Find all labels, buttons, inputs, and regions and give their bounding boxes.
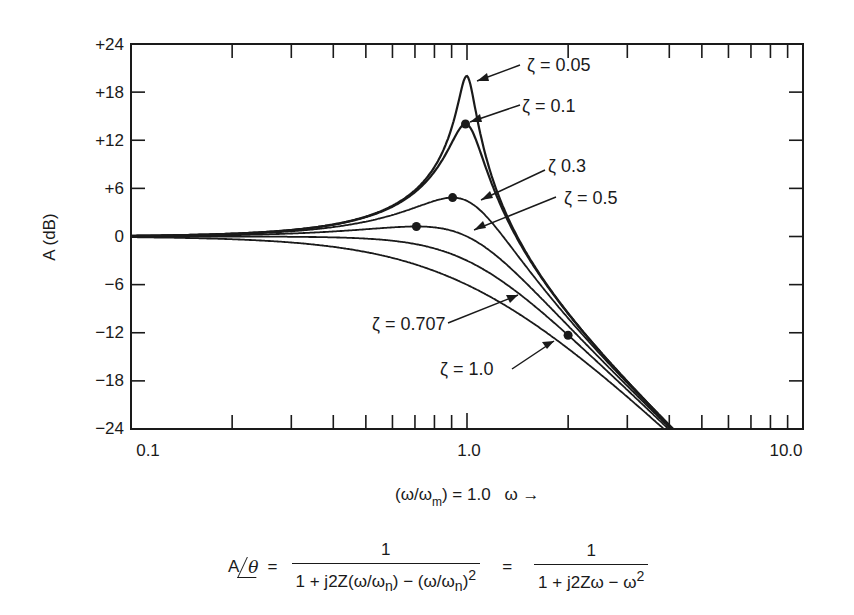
- theta-symbol: θ: [249, 557, 259, 577]
- y-tick-label: +18: [95, 83, 124, 102]
- denominator-2: 1 + j2Zω − ω2: [534, 564, 648, 593]
- x-tick-label: 0.1: [136, 441, 160, 460]
- marker-dot: [448, 193, 457, 202]
- label-zeta-0-1: ζ = 0.1: [522, 96, 575, 116]
- y-tick-label: −12: [95, 323, 124, 342]
- fraction-2: 1 1 + j2Zω − ω2: [534, 541, 648, 593]
- x-tick-label: 10.0: [769, 441, 802, 460]
- fraction-1: 1 1 + j2Z(ω/ωn) − (ω/ωn)2: [292, 540, 481, 594]
- bode-magnitude-chart: +24 +18 +12 +6 0 −6 −12 −18 −24 A (dB) 0…: [0, 0, 854, 615]
- marker-dot: [564, 331, 573, 340]
- label-zeta-0-3: ζ 0.3: [548, 156, 586, 176]
- label-zeta-1-0: ζ = 1.0: [440, 359, 493, 379]
- numerator-1: 1: [377, 540, 394, 563]
- label-zeta-0-5: ζ = 0.5: [564, 188, 617, 208]
- marker-dot: [412, 222, 421, 231]
- y-tick-label: −18: [95, 371, 124, 390]
- x-tick-label: 1.0: [457, 441, 481, 460]
- label-zeta-0-707: ζ = 0.707: [372, 314, 446, 334]
- label-zeta-0-05: ζ = 0.05: [527, 55, 590, 75]
- y-tick-label: +12: [95, 131, 124, 150]
- y-axis-label: A (dB): [40, 213, 59, 260]
- formula-lhs: A θ: [228, 557, 262, 578]
- phase-angle: θ: [237, 557, 266, 578]
- equals-sign-2: =: [502, 557, 512, 577]
- y-tick-label: −6: [105, 275, 124, 294]
- transfer-function-formula: A θ = 1 1 + j2Z(ω/ωn) − (ω/ωn)2 = 1 1 + …: [228, 540, 656, 594]
- response-curves: [131, 76, 689, 429]
- y-tick-label: 0: [115, 227, 124, 246]
- y-tick-label: −24: [95, 419, 124, 438]
- curve-zeta-0-05: [131, 76, 689, 429]
- marker-dot: [461, 120, 470, 129]
- curve-zeta-0-1: [131, 124, 689, 429]
- y-tick-label: +6: [105, 179, 124, 198]
- y-tick-label: +24: [95, 35, 124, 54]
- x-axis-label: (ω/ωm) = 1.0ω →: [395, 485, 540, 509]
- equals-sign: =: [268, 557, 278, 577]
- numerator-2: 1: [583, 541, 600, 564]
- denominator-1: 1 + j2Z(ω/ωn) − (ω/ωn)2: [292, 563, 481, 594]
